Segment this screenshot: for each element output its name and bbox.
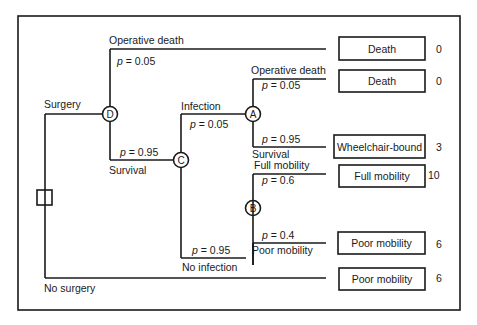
d-survival-label: Survival — [109, 164, 146, 176]
outcome-death-1: Death 0 — [339, 37, 442, 60]
node-b-label: B — [250, 203, 257, 214]
c-infection-label: Infection — [181, 100, 221, 112]
b-poor-mobility-prob: p = 0.4 — [261, 229, 295, 241]
d-survival-prob: p = 0.95 — [119, 146, 158, 158]
a-operative-death-label: Operative death — [251, 64, 326, 76]
decision-tree-diagram: Surgery No surgery D Operative death p =… — [0, 0, 477, 325]
outcome-poor-mobility-1: Poor mobility 6 — [338, 232, 442, 254]
outcome-utility: 6 — [436, 272, 442, 284]
outcome-label: Poor mobility — [351, 237, 412, 249]
outcome-label: Full mobility — [354, 170, 410, 182]
b-full-mobility-prob: p = 0.6 — [261, 174, 295, 186]
outcome-label: Death — [368, 43, 396, 55]
b-full-mobility-label: Full mobility — [254, 159, 310, 171]
outcome-label: Death — [368, 75, 396, 87]
node-c-label: C — [177, 155, 184, 166]
outcome-utility: 6 — [436, 238, 442, 250]
b-poor-mobility-label: Poor mobility — [252, 244, 313, 256]
d-operative-death-prob: p = 0.05 — [116, 55, 155, 67]
outcome-poor-mobility-2: Poor mobility 6 — [339, 268, 442, 290]
surgery-label: Surgery — [44, 98, 82, 110]
outcome-utility: 10 — [428, 169, 440, 181]
a-operative-death-prob: p = 0.05 — [261, 79, 300, 91]
outcome-utility: 0 — [436, 75, 442, 87]
outcome-label: Wheelchair-bound — [337, 141, 422, 153]
outcome-wheelchair-bound: Wheelchair-bound 3 — [334, 135, 442, 158]
d-operative-death-label: Operative death — [109, 34, 184, 46]
c-no-infection-label: No infection — [182, 261, 238, 273]
node-d-label: D — [106, 109, 113, 120]
outcome-utility: 3 — [436, 141, 442, 153]
outcome-label: Poor mobility — [352, 273, 413, 285]
outcome-utility: 0 — [436, 43, 442, 55]
c-infection-prob: p = 0.05 — [189, 118, 228, 130]
outcome-death-2: Death 0 — [339, 70, 442, 92]
node-a-label: A — [250, 109, 257, 120]
c-no-infection-prob: p = 0.95 — [191, 244, 230, 256]
a-survival-prob: p = 0.95 — [261, 133, 300, 145]
outcome-full-mobility: Full mobility 10 — [339, 165, 440, 187]
no-surgery-label: No surgery — [44, 282, 96, 294]
